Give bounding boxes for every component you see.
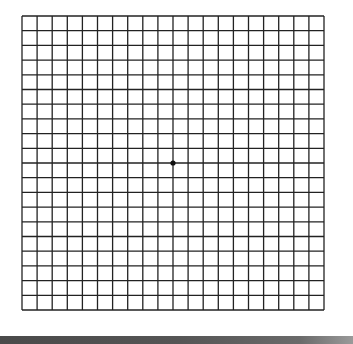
bottom-bar xyxy=(0,336,353,344)
amsler-grid xyxy=(22,16,324,310)
center-fixation-dot xyxy=(170,160,175,165)
grid-lines xyxy=(22,16,324,310)
